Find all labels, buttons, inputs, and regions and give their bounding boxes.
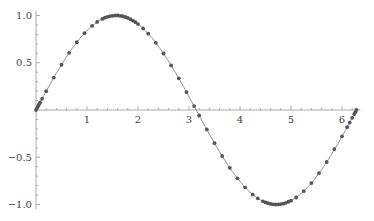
y-tick-label: −0.5	[8, 152, 32, 163]
y-tick-label: 0.5	[16, 57, 32, 68]
data-point	[44, 89, 48, 93]
data-point	[317, 171, 321, 175]
data-point	[332, 147, 336, 151]
sine-plot: 1234561.00.5−0.5−1.0	[0, 0, 374, 221]
data-point	[90, 24, 94, 28]
data-point	[136, 22, 140, 26]
data-point	[185, 90, 189, 94]
data-point	[294, 196, 298, 200]
y-tick-label: −1.0	[8, 199, 32, 210]
data-point	[141, 27, 145, 31]
data-point	[236, 176, 240, 180]
data-point	[60, 63, 64, 67]
x-tick-label: 6	[339, 114, 345, 125]
data-point	[289, 199, 293, 203]
data-point	[38, 101, 42, 105]
data-point	[146, 32, 150, 36]
data-point	[355, 108, 359, 112]
data-point	[197, 114, 201, 118]
data-point	[52, 76, 56, 80]
data-point	[340, 134, 344, 138]
x-tick-label: 5	[288, 114, 294, 125]
data-point	[83, 31, 87, 35]
data-point	[154, 41, 158, 45]
data-point	[169, 63, 173, 67]
data-point	[162, 52, 166, 56]
data-point	[213, 141, 217, 145]
data-point	[310, 181, 314, 185]
data-point	[220, 154, 224, 158]
data-point	[205, 128, 209, 132]
data-point	[350, 116, 354, 120]
data-point	[75, 40, 79, 44]
data-point	[67, 51, 71, 55]
data-point	[256, 197, 260, 201]
y-tick-label: 1.0	[16, 10, 32, 21]
data-point	[243, 185, 247, 189]
data-point	[192, 104, 196, 108]
data-point	[251, 193, 255, 197]
x-tick-label: 1	[84, 114, 90, 125]
data-point	[325, 160, 329, 164]
data-point	[40, 97, 44, 101]
x-tick-label: 4	[237, 114, 243, 125]
axes	[36, 11, 360, 209]
data-point	[302, 189, 306, 193]
data-point	[228, 166, 232, 170]
data-point	[345, 125, 349, 129]
x-tick-label: 3	[186, 114, 192, 125]
data-point	[348, 121, 352, 125]
data-point	[177, 76, 181, 80]
data-point	[95, 20, 99, 24]
x-tick-label: 2	[135, 114, 141, 125]
